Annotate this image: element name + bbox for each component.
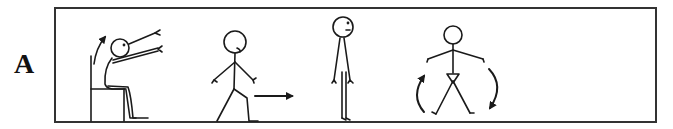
torso-right bbox=[344, 38, 350, 80]
left-leg bbox=[436, 81, 453, 114]
torso-left bbox=[334, 38, 340, 80]
torso bbox=[234, 53, 235, 89]
left-arm bbox=[428, 50, 453, 59]
panel-frame bbox=[55, 8, 656, 122]
left-arm bbox=[214, 62, 235, 80]
head bbox=[333, 17, 353, 37]
front-leg bbox=[234, 89, 258, 121]
right-arm bbox=[235, 62, 253, 80]
rotation-figure-scene bbox=[417, 26, 497, 114]
right-arm bbox=[453, 50, 483, 59]
head bbox=[224, 31, 246, 53]
walking-figure-scene bbox=[212, 31, 292, 121]
lower-arm bbox=[113, 48, 158, 60]
curved-arrow-up-left-icon bbox=[417, 76, 424, 112]
right-leg bbox=[453, 81, 470, 113]
head bbox=[444, 26, 462, 44]
curved-arrow-up-icon bbox=[94, 37, 105, 64]
upper-arm bbox=[129, 33, 155, 44]
head bbox=[111, 39, 129, 57]
back-leg bbox=[217, 89, 234, 121]
seated-figure-scene bbox=[91, 30, 162, 121]
curved-arrow-down-right-icon bbox=[489, 69, 497, 108]
standing-figure-scene bbox=[332, 17, 353, 120]
figure-canvas bbox=[0, 0, 673, 129]
